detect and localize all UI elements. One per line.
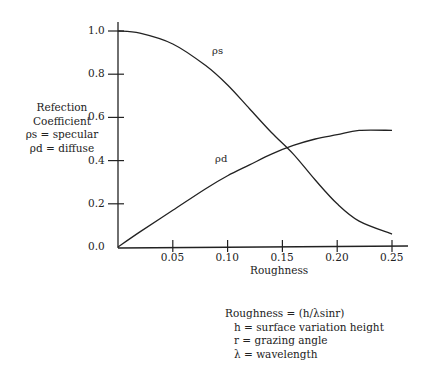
y-tick-label: 0.8 [88,67,105,79]
diffuse-curve [118,130,392,247]
y-tick-label: 0.4 [88,154,105,166]
diffuse-series-label: ρd [215,153,227,164]
x-tick-label: 0.10 [216,251,239,263]
roughness-definition: Roughness = (h/λsinr) h = surface variat… [225,307,384,361]
x-tick-label: 0.05 [161,251,184,263]
definition-line: h = surface variation height [225,321,384,335]
y-tick-label: 0.0 [88,240,105,252]
y-tick-label: 1.0 [88,24,105,36]
y-axis-label-line: ρd = diffuse [18,142,106,156]
x-axis [118,246,408,248]
y-ticks [108,31,124,204]
x-axis-label: Roughness [250,264,308,276]
y-axis-label-line: Coefficient [18,115,106,129]
x-tick-label: 0.20 [325,251,348,263]
y-axis-label-line: ρs = specular [18,128,106,142]
definition-line: r = grazing angle [225,334,384,348]
definition-line: Roughness = (h/λsinr) [225,307,384,321]
specular-series-label: ρs [212,45,223,56]
x-tick-label: 0.15 [270,251,293,263]
y-axis-label-line: Refection [18,101,106,115]
x-tick-label: 0.25 [380,251,403,263]
specular-curve [118,31,392,234]
definition-line: λ = wavelength [225,348,384,362]
y-axis-label: Refection Coefficient ρs = specular ρd =… [18,101,106,155]
y-tick-label: 0.2 [88,197,105,209]
